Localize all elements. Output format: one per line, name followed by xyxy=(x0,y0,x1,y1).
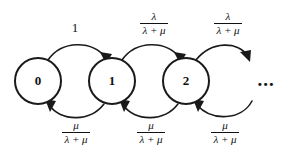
transition-1-to-0-arc xyxy=(49,104,104,118)
state-node-2[interactable]: 2 xyxy=(163,58,209,104)
transition-0-to-1-label: 1 xyxy=(65,21,85,34)
transition-next-to-2-arc xyxy=(197,101,252,117)
fraction: μ λ + μ xyxy=(62,120,89,145)
transition-2-to-next-arc xyxy=(196,45,247,60)
transition-0-to-1-arc xyxy=(48,45,106,60)
fraction: λ λ + μ xyxy=(214,11,241,36)
transition-2-to-next xyxy=(196,45,251,62)
transition-2-to-next-label: λ λ + μ xyxy=(207,11,249,36)
fraction-denominator: λ + μ xyxy=(214,24,241,36)
fraction-denominator: λ + μ xyxy=(62,133,89,145)
transition-1-to-0-label: μ λ + μ xyxy=(55,120,97,145)
fraction-denominator: λ + μ xyxy=(140,24,167,36)
state-2-label: 2 xyxy=(183,73,190,88)
transition-2-to-1-label: μ λ + μ xyxy=(130,120,172,145)
transition-1-to-2-label: λ λ + μ xyxy=(133,11,175,36)
transition-1-to-2-arc xyxy=(122,45,180,60)
fraction-denominator: λ + μ xyxy=(137,133,164,145)
states-ellipsis: ... xyxy=(257,69,274,90)
fraction: μ λ + μ xyxy=(211,120,238,145)
fraction-numerator: λ xyxy=(214,11,241,23)
fraction: μ λ + μ xyxy=(137,120,164,145)
state-node-1[interactable]: 1 xyxy=(89,58,135,104)
fraction: λ λ + μ xyxy=(140,11,167,36)
state-0-label: 0 xyxy=(35,73,42,88)
transition-2-to-1 xyxy=(119,99,178,118)
transition-2-to-next-arrowhead xyxy=(240,50,251,62)
transition-next-to-2 xyxy=(193,99,252,117)
state-node-0[interactable]: 0 xyxy=(15,58,61,104)
fraction-numerator: μ xyxy=(137,120,164,132)
fraction-numerator: λ xyxy=(140,11,167,23)
transition-2-to-1-arc xyxy=(123,104,178,118)
fraction-denominator: λ + μ xyxy=(211,133,238,145)
fraction-numerator: μ xyxy=(62,120,89,132)
transition-next-to-2-label: μ λ + μ xyxy=(204,120,246,145)
transition-1-to-0 xyxy=(45,99,104,118)
markov-chain-diagram: 0 1 2 ... 1 λ λ + μ λ λ + μ μ λ xyxy=(0,0,290,157)
state-1-label: 1 xyxy=(109,73,116,88)
fraction-numerator: μ xyxy=(211,120,238,132)
